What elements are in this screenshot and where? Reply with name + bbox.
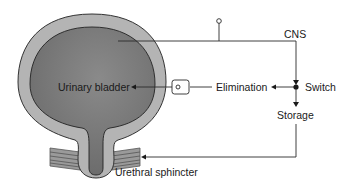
- label-storage: Storage: [277, 110, 314, 121]
- label-switch: Switch: [305, 82, 336, 93]
- label-elimination: Elimination: [216, 82, 267, 93]
- switch-node: [293, 84, 298, 89]
- bladder-control-diagram: Urinary bladder CNS Elimination Switch S…: [0, 0, 348, 187]
- label-cns: CNS: [284, 29, 306, 40]
- label-urinary-bladder: Urinary bladder: [58, 82, 130, 93]
- valve-box: [172, 80, 189, 94]
- cns-input-pin: [217, 19, 222, 24]
- label-urethral-sphincter: Urethral sphincter: [115, 167, 198, 178]
